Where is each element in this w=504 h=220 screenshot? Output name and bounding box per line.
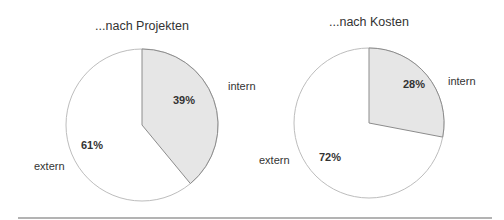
category-label-extern: extern — [34, 160, 65, 172]
category-label-intern: intern — [448, 75, 476, 87]
category-label-extern: extern — [259, 154, 290, 166]
pct-label-intern: 28% — [403, 78, 425, 90]
chart-title-projects: ...nach Projekten — [95, 19, 189, 33]
pie-chart-projects: ...nach Projekten 39% 61% intern extern — [34, 19, 256, 201]
pie-slice-intern — [369, 48, 444, 137]
pct-label-intern: 39% — [173, 94, 195, 106]
pie-chart-costs: ...nach Kosten 28% 72% intern extern — [259, 15, 476, 198]
pct-label-extern: 72% — [319, 151, 341, 163]
pie-charts: ...nach Projekten 39% 61% intern extern … — [0, 0, 504, 220]
chart-title-costs: ...nach Kosten — [329, 15, 409, 29]
category-label-intern: intern — [228, 80, 256, 92]
pct-label-extern: 61% — [81, 139, 103, 151]
